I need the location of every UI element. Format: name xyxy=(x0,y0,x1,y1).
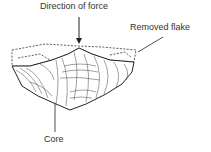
force-arrow xyxy=(76,17,82,44)
core xyxy=(12,48,134,110)
flake-leader xyxy=(138,37,163,52)
flake-diagram xyxy=(0,0,211,152)
